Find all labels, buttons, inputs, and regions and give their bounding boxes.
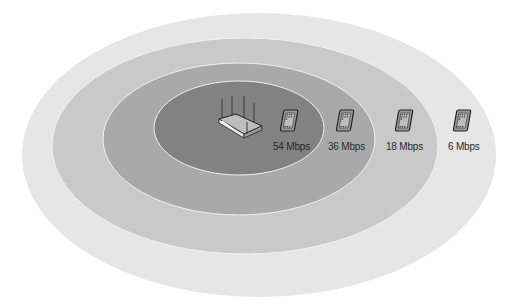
- coverage-diagram: [0, 0, 510, 304]
- tablet-icon-6: [453, 110, 471, 131]
- rate-label-18: 18 Mbps: [386, 141, 423, 152]
- rate-label-54: 54 Mbps: [273, 141, 310, 152]
- tablet-icon-18: [395, 110, 413, 131]
- rate-label-36: 36 Mbps: [328, 141, 365, 152]
- tablet-icon-54: [280, 110, 298, 131]
- tablet-icon-36: [336, 110, 354, 131]
- rate-label-6: 6 Mbps: [448, 141, 480, 152]
